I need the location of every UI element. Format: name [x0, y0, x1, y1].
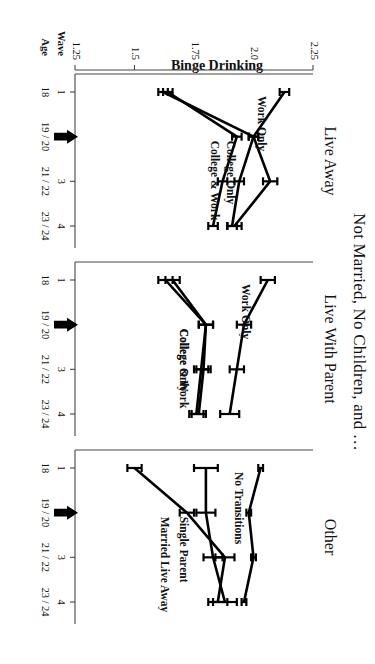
x-axis-age-label: 21 / 22	[40, 161, 51, 201]
x-axis-age-label: 19 / 20	[40, 305, 51, 345]
y-axis-tick-label: 1.5	[131, 26, 142, 60]
x-axis-age-label: 23 / 24	[40, 582, 51, 622]
x-axis-age-label: 18	[40, 448, 51, 488]
age-row-label: Age	[40, 22, 51, 56]
x-axis-age-label: 23 / 24	[40, 206, 51, 246]
series-label-college-only: College Only	[226, 141, 238, 205]
series-line-0	[244, 468, 261, 602]
x-axis-age-label: 19 / 20	[40, 493, 51, 533]
panel-title-0: Live Away	[321, 74, 339, 248]
series-label-work-only: Work Only	[240, 284, 252, 339]
y-axis-tick-label: 1.25	[71, 26, 82, 60]
x-axis-age-label: 18	[40, 72, 51, 112]
figure-canvas: Not Married, No Children, and … Binge Dr…	[0, 0, 375, 664]
rotated-figure-wrapper: Not Married, No Children, and … Binge Dr…	[0, 0, 375, 664]
x-axis-wave-label: 3	[56, 161, 67, 201]
x-axis-wave-label: 3	[56, 537, 67, 577]
x-axis-wave-label: 4	[56, 582, 67, 622]
x-axis-wave-label: 1	[56, 72, 67, 112]
series-label-married-live-away: Married Live Away	[159, 517, 171, 613]
x-axis-wave-label: 2	[56, 117, 67, 157]
y-axis-tick-label: 1.75	[190, 26, 201, 60]
series-label-work-only: Work Only	[256, 96, 268, 151]
x-axis-wave-label: 4	[56, 394, 67, 434]
series-label-college-work: College & Work	[178, 329, 190, 409]
series-label-no-transitions: No Transitions	[233, 472, 245, 544]
series-label-single-parent: Single Parent	[178, 517, 190, 583]
panel-title-1: Live With Parent	[321, 262, 339, 436]
y-axis-tick-label: 2.25	[309, 26, 320, 60]
x-axis-wave-label: 3	[56, 349, 67, 389]
x-axis-wave-label: 1	[56, 448, 67, 488]
panel-title-2: Other	[321, 450, 339, 624]
x-axis-age-label: 19 / 20	[40, 117, 51, 157]
wave-row-label: Wave	[56, 22, 67, 56]
x-axis-age-label: 23 / 24	[40, 394, 51, 434]
x-axis-wave-label: 2	[56, 493, 67, 533]
x-axis-age-label: 21 / 22	[40, 537, 51, 577]
series-label-college-work: College & Work	[209, 141, 221, 221]
x-axis-age-label: 21 / 22	[40, 349, 51, 389]
y-axis-tick-label: 2.0	[250, 26, 261, 60]
x-axis-wave-label: 4	[56, 206, 67, 246]
x-axis-age-label: 18	[40, 260, 51, 300]
x-axis-wave-label: 1	[56, 260, 67, 300]
x-axis-wave-label: 2	[56, 305, 67, 345]
